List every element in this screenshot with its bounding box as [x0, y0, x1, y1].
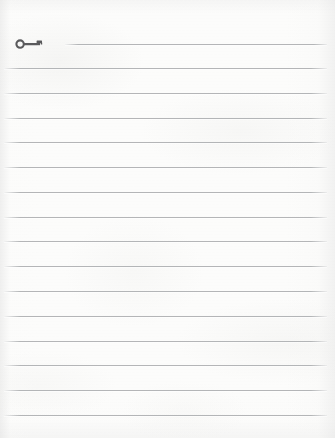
- ruled-line-5: [4, 142, 327, 143]
- ruled-line-6: [4, 167, 327, 168]
- ruled-line-14: [4, 365, 327, 366]
- ruled-line-2: [4, 68, 327, 69]
- ruled-line-12: [4, 316, 327, 317]
- key-icon: [15, 37, 45, 51]
- ruled-line-7: [4, 192, 327, 193]
- ruled-line-15: [4, 390, 327, 391]
- ruled-line-16: [4, 415, 327, 416]
- ruled-line-10: [4, 266, 327, 267]
- scanned-paper-page: [0, 0, 335, 438]
- ruled-line-8: [4, 217, 327, 218]
- ruled-line-4: [4, 118, 327, 119]
- ruled-line-1: [65, 44, 327, 45]
- ruled-line-13: [4, 341, 327, 342]
- ruled-lines-layer: [0, 0, 335, 438]
- ruled-line-11: [4, 291, 327, 292]
- ruled-line-9: [4, 241, 327, 242]
- ruled-line-3: [4, 93, 327, 94]
